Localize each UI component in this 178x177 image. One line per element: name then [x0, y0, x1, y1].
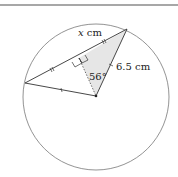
radius-label: 6.5 cm	[116, 61, 151, 72]
circle-chord-diagram: x cm 6.5 cm 56°	[0, 0, 178, 177]
radius-left	[25, 83, 96, 96]
chord-label: x cm	[78, 27, 102, 38]
radius-tick-left	[61, 88, 62, 92]
angle-label: 56°	[89, 71, 107, 82]
center-point	[95, 95, 98, 98]
